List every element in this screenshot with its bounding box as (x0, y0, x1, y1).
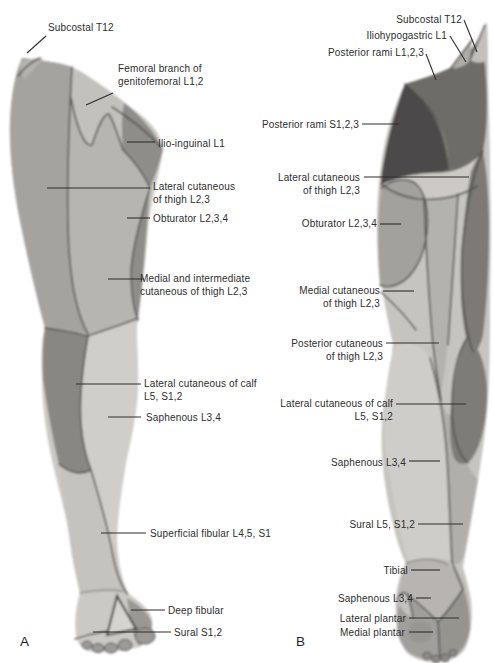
leader-a-subcostal (27, 36, 46, 53)
label-a-lateral-cutaneous-thigh: Lateral cutaneous of thigh L2,3 (153, 180, 235, 206)
leg-b-subcostal-region (470, 25, 487, 63)
label-b-saphenous: Saphenous L3,4 (331, 456, 406, 469)
label-b-saphenous-foot: Saphenous L3,4 (338, 592, 413, 605)
label-a-obturator: Obturator L2,3,4 (153, 212, 228, 225)
label-a-deep-fibular: Deep fibular (168, 604, 224, 617)
label-b-tibial: Tibial (384, 564, 408, 577)
label-a-ilio-inguinal: Ilio-inguinal L1 (158, 137, 225, 150)
label-a-lateral-cutaneous-calf: Lateral cutaneous of calf L5, S1,2 (144, 377, 257, 403)
label-b-posterior-rami-lumbar: Posterior rami L1,2,3 (328, 46, 424, 59)
label-b-subcostal: Subcostal T12 (396, 13, 462, 26)
label-b-obturator: Obturator L2,3,4 (302, 217, 377, 230)
label-b-iliohypogastric: Iliohypogastric L1 (366, 29, 447, 42)
panel-letter-b: B (296, 634, 305, 649)
anatomy-figure: Subcostal T12 Femoral branch of genitofe… (0, 0, 494, 663)
label-b-lateral-plantar: Lateral plantar (340, 612, 406, 625)
leg-anterior (10, 58, 163, 653)
label-b-sural: Sural L5, S1,2 (350, 518, 415, 531)
label-b-posterior-rami-sacral: Posterior rami S1,2,3 (262, 118, 359, 131)
label-a-medial-intermediate: Medial and intermediate cutaneous of thi… (140, 272, 250, 298)
label-b-posterior-cutaneous-thigh: Posterior cutaneous of thigh L2,3 (291, 337, 383, 363)
label-a-sural: Sural S1,2 (174, 626, 222, 639)
label-a-subcostal: Subcostal T12 (48, 21, 114, 34)
label-a-saphenous: Saphenous L3,4 (146, 411, 221, 424)
label-b-lateral-cutaneous-thigh: Lateral cutaneous of thigh L2,3 (278, 171, 360, 197)
panel-letter-a: A (20, 634, 29, 649)
label-b-medial-plantar: Medial plantar (340, 626, 405, 639)
anatomy-illustration (0, 0, 494, 663)
label-a-superficial-fibular: Superficial fibular L4,5, S1 (150, 527, 271, 540)
label-b-medial-cutaneous-thigh: Medial cutaneous of thigh L2,3 (299, 284, 380, 310)
label-a-genitofemoral: Femoral branch of genitofemoral L1,2 (118, 62, 204, 88)
label-b-lateral-cutaneous-calf: Lateral cutaneous of calf L5, S1,2 (280, 397, 393, 423)
